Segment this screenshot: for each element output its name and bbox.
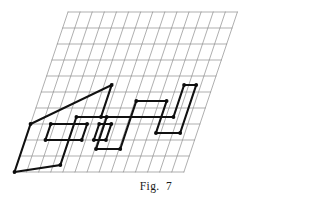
vertex-dot	[182, 83, 186, 87]
vertex-dot	[13, 170, 17, 174]
vertex-dot	[80, 138, 84, 142]
vertex-dot	[94, 147, 98, 151]
vertex-dot	[92, 138, 96, 142]
vertex-dot	[118, 147, 122, 151]
vertex-dot	[97, 122, 101, 126]
vertex-dot	[172, 115, 176, 119]
vertex-dot	[58, 163, 62, 167]
figure-caption: Fig. 7	[0, 180, 312, 192]
vertex-dot	[29, 122, 33, 126]
vertex-dot	[109, 122, 113, 126]
vertex-dot	[49, 122, 53, 126]
vertex-dot	[110, 83, 114, 87]
vertex-dot	[44, 138, 48, 142]
vertex-dot	[75, 115, 79, 119]
vertex-dot	[154, 131, 158, 135]
figure-svg	[0, 0, 312, 200]
vertex-dot	[99, 115, 103, 119]
vertex-dot	[105, 115, 109, 119]
vertex-dot	[104, 138, 108, 142]
vertex-dot	[134, 99, 138, 103]
vertex-dot	[85, 122, 89, 126]
vertex-dot	[165, 99, 169, 103]
vertex-dot	[178, 131, 182, 135]
figure-container: Fig. 7	[0, 0, 312, 200]
vertex-dot	[194, 83, 198, 87]
